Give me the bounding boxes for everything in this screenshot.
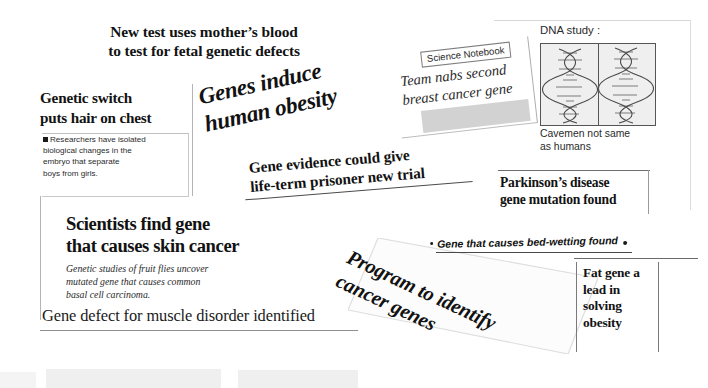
- line-underline-rule: [40, 330, 358, 331]
- panel-caption: Cavemen not same as humans: [540, 128, 660, 153]
- column-divider-rule: [40, 196, 41, 320]
- headline-line: Fat gene a: [583, 265, 656, 282]
- headline-collage: New test uses mother’s blood to test for…: [0, 0, 708, 388]
- panel-label: DNA study :: [540, 24, 600, 36]
- clipping-science-notebook: Science Notebook Team nabs second breast…: [392, 37, 537, 140]
- headline-line: obesity: [583, 315, 656, 332]
- line-gene-defect-muscle-disorder: Gene defect for muscle disorder identifi…: [42, 306, 372, 326]
- panel-dna-study: DNA study :: [530, 24, 662, 158]
- headline-gene-evidence-prisoner: Gene evidence could give life-term priso…: [248, 140, 478, 196]
- partial-clipping-block: [0, 372, 36, 388]
- body-line: biological changes in the: [43, 145, 185, 156]
- clipping-parkinsons-disease: Parkinson’s disease gene mutation found: [500, 171, 648, 213]
- clipping-bottom-rule: [42, 196, 189, 197]
- headline-line: that causes skin cancer: [66, 235, 296, 257]
- clipping-left-rule: [576, 262, 577, 352]
- clipping-headline: Genetic switch puts hair on chest: [40, 88, 192, 127]
- clipping-fat-gene-obesity: Fat gene a lead in solving obesity: [580, 262, 656, 348]
- clipping-right-rule: [658, 262, 659, 352]
- column-divider-rule: [192, 84, 193, 196]
- line-underline-rule: [436, 252, 632, 253]
- square-bullet-icon: [43, 137, 48, 142]
- caption-line: as humans: [540, 141, 660, 154]
- headline-line: gene mutation found: [500, 191, 648, 208]
- headline-line: lead in: [583, 282, 656, 299]
- caption-line: Cavemen not same: [540, 128, 660, 141]
- dna-image-frame: [540, 43, 656, 126]
- dna-double-helix-icon: [541, 44, 599, 125]
- headline-line: puts hair on chest: [40, 108, 192, 128]
- headline-line: Parkinson’s disease: [500, 174, 648, 191]
- headline-line: Scientists find gene: [66, 213, 296, 235]
- clipping-subhead: Genetic studies of fruit flies uncover m…: [66, 262, 296, 302]
- partial-clipping-block: [238, 370, 358, 388]
- clipping-genetic-switch: Genetic switch puts hair on chest Resear…: [40, 88, 192, 196]
- clipping-skin-cancer-gene: Scientists find gene that causes skin ca…: [66, 213, 296, 302]
- clipping-body-text: Researchers have isolated biological cha…: [43, 134, 185, 179]
- subhead-line: mutated gene that causes common: [66, 275, 296, 288]
- dot-bullet-icon: [430, 242, 433, 245]
- dna-double-helix-icon: [599, 44, 656, 125]
- partial-clipping-block: [46, 369, 221, 388]
- clipping-right-rule: [648, 170, 649, 214]
- clipping-headline: Parkinson’s disease gene mutation found: [500, 171, 648, 208]
- subhead-line: Genetic studies of fruit flies uncover: [66, 262, 296, 275]
- dot-bullet-icon: [623, 241, 627, 245]
- headline-fetal-genetic-defects: New test uses mother’s blood to test for…: [78, 22, 330, 60]
- body-line: embryo that separate: [43, 156, 185, 167]
- headline-line: to test for fetal genetic defects: [78, 41, 330, 60]
- body-line: Researchers have isolated: [50, 135, 146, 144]
- headline-line: Genetic switch: [40, 88, 192, 108]
- line-bedwetting-gene: Gene that causes bed-wetting found: [430, 233, 646, 250]
- clipping-headline: Fat gene a lead in solving obesity: [580, 262, 656, 331]
- clipping-program-cancer-genes: Program to identify cancer genes: [348, 238, 598, 354]
- headline-line: solving: [583, 298, 656, 315]
- clipping-headline: Scientists find gene that causes skin ca…: [66, 213, 296, 256]
- clipping-top-rule: [574, 258, 698, 259]
- body-line: boys from girls.: [43, 168, 185, 179]
- panel-top-rule: [494, 20, 690, 21]
- subhead-line: basal cell carcinoma.: [66, 288, 296, 301]
- panel-right-rule: [690, 20, 691, 210]
- headline-line: New test uses mother’s blood: [78, 22, 330, 41]
